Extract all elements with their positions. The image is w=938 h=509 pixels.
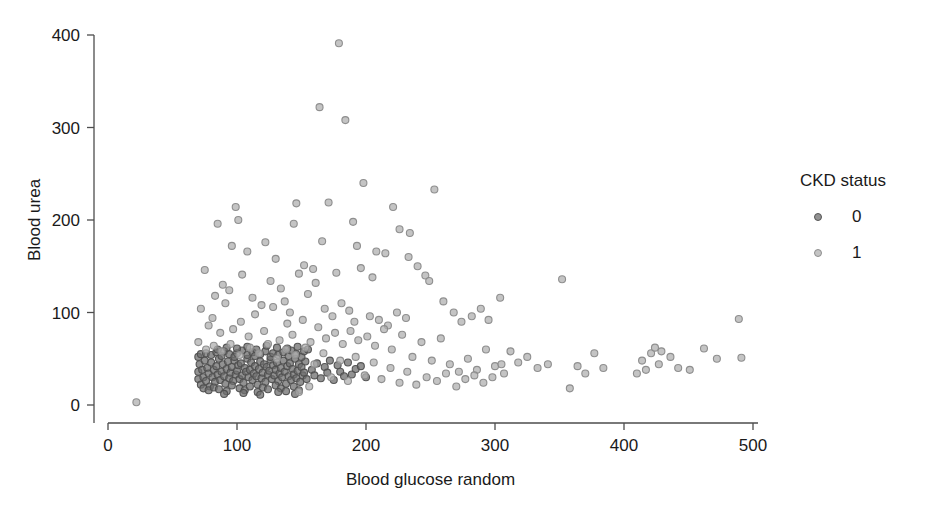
- data-point: [246, 344, 253, 351]
- data-point: [485, 316, 492, 323]
- data-point: [370, 359, 377, 366]
- data-point: [462, 376, 469, 383]
- data-point: [304, 291, 311, 298]
- data-point: [272, 255, 279, 262]
- data-point: [437, 335, 444, 342]
- legend-item-1[interactable]: 1: [815, 243, 862, 262]
- data-point: [482, 346, 489, 353]
- data-point: [273, 344, 280, 351]
- data-point: [515, 359, 522, 366]
- data-point: [468, 313, 475, 320]
- data-point: [237, 318, 244, 325]
- data-point: [307, 339, 314, 346]
- data-point: [222, 300, 229, 307]
- data-point: [342, 117, 349, 124]
- data-point: [344, 377, 351, 384]
- data-point: [404, 368, 411, 375]
- data-point: [261, 328, 268, 335]
- data-point: [262, 239, 269, 246]
- data-point: [201, 266, 208, 273]
- legend-layer: CKD status01: [800, 171, 886, 262]
- data-point: [355, 337, 362, 344]
- data-point: [295, 389, 302, 396]
- data-point: [292, 352, 299, 359]
- data-point: [209, 315, 216, 322]
- data-point: [458, 318, 465, 325]
- data-point: [357, 363, 364, 370]
- data-point: [197, 305, 204, 312]
- data-point: [319, 238, 326, 245]
- data-point: [390, 204, 397, 211]
- data-point: [633, 370, 640, 377]
- data-point: [357, 265, 364, 272]
- data-point: [214, 220, 221, 227]
- plot-area: [133, 40, 745, 406]
- legend-item-0[interactable]: 0: [815, 207, 862, 226]
- data-point: [413, 381, 420, 388]
- data-point: [320, 350, 327, 357]
- data-point: [267, 278, 274, 285]
- x-tick-label-400: 400: [610, 436, 638, 455]
- data-point: [713, 355, 720, 362]
- data-point: [574, 363, 581, 370]
- y-tick-label-0: 0: [71, 396, 80, 415]
- data-point: [294, 343, 301, 350]
- data-point: [651, 344, 658, 351]
- data-point: [464, 355, 471, 362]
- data-point: [258, 302, 265, 309]
- data-point: [414, 263, 421, 270]
- data-point: [317, 375, 324, 382]
- data-point: [446, 361, 453, 368]
- data-point: [315, 324, 322, 331]
- data-point: [227, 340, 234, 347]
- data-point: [210, 342, 217, 349]
- data-point: [302, 344, 309, 351]
- data-point: [264, 386, 271, 393]
- data-point: [351, 318, 358, 325]
- plot-canvas: 01002003004005000100200300400Blood gluco…: [0, 0, 938, 509]
- x-tick-label-200: 200: [352, 436, 380, 455]
- data-point: [310, 266, 317, 273]
- x-tick-label-0: 0: [103, 436, 112, 455]
- data-point: [582, 370, 589, 377]
- data-point: [332, 329, 339, 336]
- data-point: [284, 320, 291, 327]
- data-point: [257, 391, 264, 398]
- data-point: [409, 353, 416, 360]
- data-point: [312, 279, 319, 286]
- data-point: [480, 379, 487, 386]
- series-1: [133, 40, 745, 406]
- data-point: [667, 353, 674, 360]
- data-point: [366, 313, 373, 320]
- data-point: [283, 388, 290, 395]
- data-point: [337, 357, 344, 364]
- data-point: [218, 348, 225, 355]
- data-point: [301, 262, 308, 269]
- data-point: [428, 357, 435, 364]
- data-point: [431, 186, 438, 193]
- data-point: [240, 389, 247, 396]
- data-point: [333, 269, 340, 276]
- data-point: [321, 305, 328, 312]
- data-point: [325, 199, 332, 206]
- legend-item-label: 0: [852, 207, 861, 226]
- data-point: [382, 250, 389, 257]
- data-point: [239, 271, 246, 278]
- data-point: [418, 339, 425, 346]
- data-point: [353, 242, 360, 249]
- data-point: [591, 350, 598, 357]
- data-point: [228, 242, 235, 249]
- data-point: [361, 372, 368, 379]
- data-point: [311, 361, 318, 368]
- x-axis-title: Blood glucose random: [346, 470, 515, 489]
- data-point: [255, 350, 262, 357]
- data-point: [497, 294, 504, 301]
- data-point: [328, 374, 335, 381]
- data-point: [450, 309, 457, 316]
- data-point: [507, 348, 514, 355]
- data-point: [393, 309, 400, 316]
- data-point: [501, 370, 508, 377]
- y-tick-label-100: 100: [52, 304, 80, 323]
- data-point: [399, 331, 406, 338]
- data-point: [226, 287, 233, 294]
